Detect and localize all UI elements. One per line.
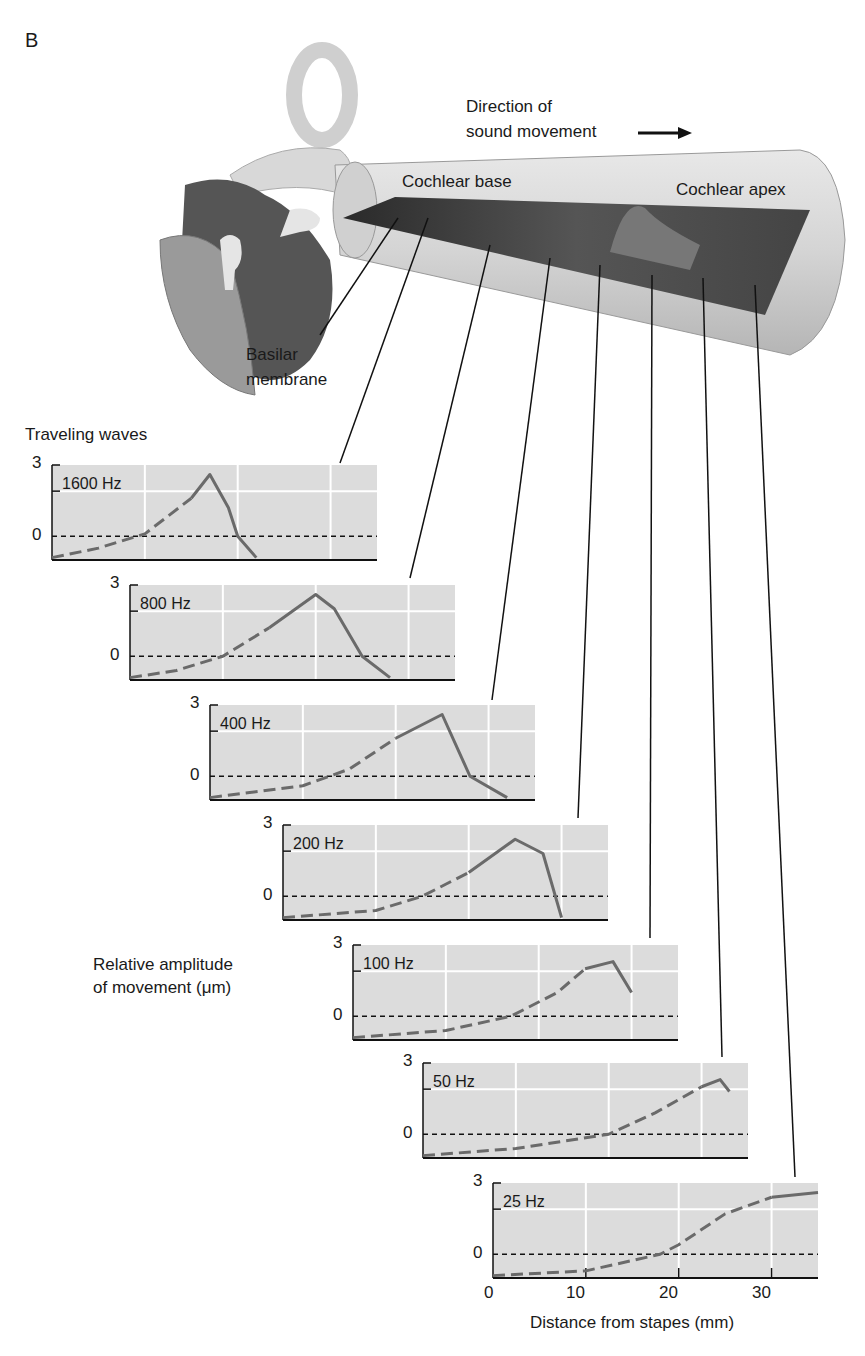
x-tick-10: 10 bbox=[566, 1283, 585, 1303]
panel-frequency-label: 100 Hz bbox=[363, 955, 414, 973]
y-tick-0: 0 bbox=[473, 1243, 482, 1263]
panel-frequency-label: 400 Hz bbox=[220, 715, 271, 733]
y-tick-3: 3 bbox=[263, 813, 272, 833]
panel-frequency-label: 25 Hz bbox=[503, 1193, 545, 1211]
panel-frequency-label: 1600 Hz bbox=[62, 475, 122, 493]
y-tick-3: 3 bbox=[110, 573, 119, 593]
y-tick-0: 0 bbox=[190, 765, 199, 785]
y-tick-3: 3 bbox=[473, 1171, 482, 1191]
y-tick-0: 0 bbox=[333, 1005, 342, 1025]
x-tick-30: 30 bbox=[752, 1283, 771, 1303]
y-tick-0: 0 bbox=[263, 885, 272, 905]
y-tick-0: 0 bbox=[403, 1123, 412, 1143]
y-tick-0: 0 bbox=[110, 645, 119, 665]
panel-frequency-label: 200 Hz bbox=[293, 835, 344, 853]
x-axis-label: Distance from stapes (mm) bbox=[530, 1313, 734, 1333]
x-tick-0: 0 bbox=[484, 1283, 493, 1303]
y-tick-3: 3 bbox=[333, 933, 342, 953]
y-tick-0: 0 bbox=[32, 525, 41, 545]
y-tick-3: 3 bbox=[190, 693, 199, 713]
wave-panels bbox=[0, 0, 865, 1356]
y-tick-3: 3 bbox=[32, 453, 41, 473]
y-tick-3: 3 bbox=[403, 1051, 412, 1071]
panel-frequency-label: 800 Hz bbox=[140, 595, 191, 613]
panel-frequency-label: 50 Hz bbox=[433, 1073, 475, 1091]
x-tick-20: 20 bbox=[659, 1283, 678, 1303]
